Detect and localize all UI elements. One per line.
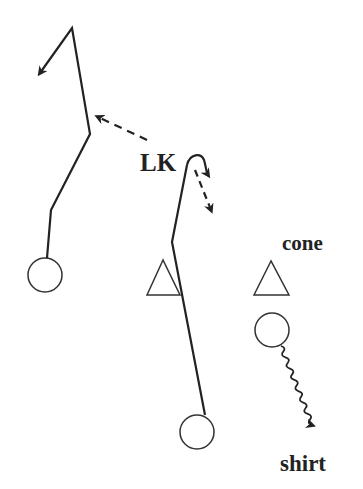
player-bottom-circle <box>180 415 214 449</box>
lk-pass-dashed-arrow <box>98 117 147 140</box>
lk-label: LK <box>140 149 177 176</box>
shirt-wavy-arrow <box>280 343 313 428</box>
left-run-path <box>40 28 90 258</box>
lk-curl-arrow <box>187 155 208 175</box>
player-left-circle <box>28 258 62 292</box>
cone-middle-triangle <box>147 260 180 295</box>
play-diagram: LK cone shirt <box>0 0 363 489</box>
shirt-label: shirt <box>280 451 326 476</box>
cone-label: cone <box>282 231 323 255</box>
cone-right-triangle <box>254 261 289 295</box>
lk-dashed-run-arrow <box>195 170 211 210</box>
player-right-circle <box>255 313 289 347</box>
